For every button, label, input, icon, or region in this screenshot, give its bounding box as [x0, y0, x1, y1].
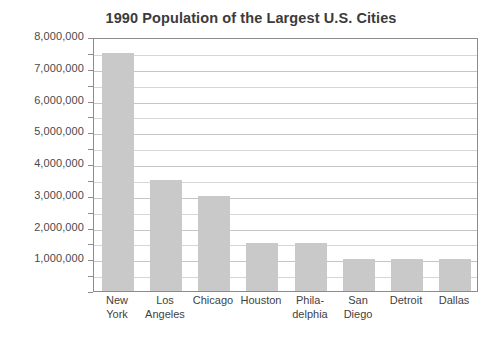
bar [246, 243, 278, 291]
x-axis-label-line2: Diego [334, 308, 382, 322]
x-axis: NewYorkLosAngelesChicagoHoustonPhila-del… [93, 294, 478, 344]
x-axis-label-line1: Detroit [390, 294, 422, 306]
x-axis-label-line2: York [93, 308, 141, 322]
x-axis-tick-label: NewYork [93, 294, 141, 321]
chart-title: 1990 Population of the Largest U.S. Citi… [0, 10, 502, 26]
y-axis-tick-label: 5,000,000 [34, 125, 84, 137]
x-axis-label-line1: San [348, 294, 368, 306]
bar-chart: 1990 Population of the Largest U.S. Citi… [0, 0, 502, 349]
bar [102, 53, 134, 291]
y-axis-tick-label: 1,000,000 [34, 252, 84, 264]
bar [295, 243, 327, 291]
x-axis-tick-label: Phila-delphia [286, 294, 334, 321]
y-axis-tick-label: 4,000,000 [34, 157, 84, 169]
x-axis-tick-label: Detroit [382, 294, 430, 308]
bar [343, 259, 375, 291]
x-axis-label-line1: Phila- [296, 294, 324, 306]
y-axis-tick-label: 2,000,000 [34, 221, 84, 233]
y-axis-tick-label: 7,000,000 [34, 62, 84, 74]
x-axis-label-line1: Dallas [439, 294, 470, 306]
y-axis-tick-label: 6,000,000 [34, 94, 84, 106]
bars-group [94, 39, 477, 291]
y-axis-tick-label: 3,000,000 [34, 189, 84, 201]
bar [439, 259, 471, 291]
x-axis-label-line1: Houston [241, 294, 282, 306]
tick-mark [88, 292, 93, 293]
x-axis-tick-label: LosAngeles [141, 294, 189, 321]
x-axis-tick-label: Chicago [189, 294, 237, 308]
x-axis-tick-label: SanDiego [334, 294, 382, 321]
x-axis-label-line1: Los [156, 294, 174, 306]
y-axis: 1,000,0002,000,0003,000,0004,000,0005,00… [0, 38, 93, 292]
x-axis-label-line1: New [106, 294, 128, 306]
x-axis-label-line2: delphia [286, 308, 334, 322]
bar [391, 259, 423, 291]
plot-area [93, 38, 478, 292]
bar [198, 196, 230, 291]
x-axis-tick-label: Houston [237, 294, 285, 308]
x-axis-tick-label: Dallas [430, 294, 478, 308]
bar [150, 180, 182, 291]
x-axis-label-line2: Angeles [141, 308, 189, 322]
y-axis-tick-label: 8,000,000 [34, 30, 84, 42]
x-axis-label-line1: Chicago [193, 294, 233, 306]
